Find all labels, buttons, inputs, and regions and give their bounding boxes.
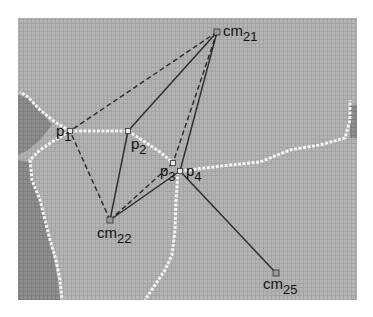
marker-cm22 [107, 217, 113, 223]
label-p4: p4 [186, 163, 202, 178]
label-p1: p1 [56, 123, 72, 138]
label-cm22: cm22 [97, 225, 131, 240]
label-subscript: 22 [117, 231, 131, 246]
diagram-canvas [0, 0, 373, 317]
label-p3: p3 [160, 163, 176, 178]
label-subscript: 1 [64, 129, 71, 144]
label-p2: p2 [131, 136, 147, 151]
segmentation-diagram: cm21p1p2p3p4cm22cm25 [0, 0, 373, 317]
label-main: cm [97, 224, 117, 241]
label-subscript: 4 [194, 169, 201, 184]
marker-p2 [126, 129, 131, 134]
label-subscript: 2 [139, 142, 146, 157]
label-cm25: cm25 [263, 276, 297, 291]
marker-p4 [178, 169, 183, 174]
label-subscript: 25 [283, 282, 297, 297]
label-subscript: 3 [168, 169, 175, 184]
label-main: cm [223, 22, 243, 39]
marker-cm21 [214, 29, 220, 35]
label-subscript: 21 [243, 29, 257, 44]
label-main: cm [263, 275, 283, 292]
label-cm21: cm21 [223, 23, 257, 38]
image-region [18, 18, 357, 300]
